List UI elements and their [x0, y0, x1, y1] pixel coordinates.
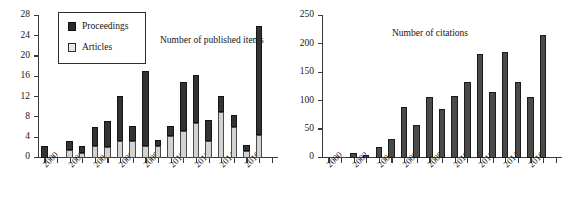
- bar-segment-proceedings: [129, 126, 136, 141]
- bar-segment-proceedings: [92, 127, 99, 147]
- y-tick-published-12: 12: [34, 96, 39, 97]
- y-tick-citations-250: 250: [318, 15, 323, 16]
- bar-citations-2006: [401, 107, 408, 158]
- bar-segment-articles: [142, 146, 149, 158]
- bar-citations-2008: [426, 97, 433, 158]
- bar-segment-articles: [117, 141, 124, 158]
- bar-segment-articles: [231, 127, 238, 158]
- x-tick-citations-2017: [543, 158, 544, 163]
- x-tick-citations-2018: [556, 158, 557, 163]
- x-tick-published-2013: [209, 158, 210, 163]
- x-tick-citations-2015: [518, 158, 519, 163]
- y-tick-published-8: 8: [34, 116, 39, 117]
- bar-citations-2004: [376, 147, 383, 158]
- bar-citations-2013: [489, 92, 496, 158]
- bar-published-2011: [180, 82, 187, 158]
- bar-published-2014: [218, 96, 225, 158]
- y-tick-label: 28: [21, 11, 31, 21]
- bar-published-2012: [193, 75, 200, 158]
- bar-published-2008: [142, 71, 149, 158]
- y-tick-label: 16: [21, 72, 31, 82]
- x-tick-citations-2009: [442, 158, 443, 163]
- bar-segment-articles: [167, 136, 174, 158]
- bar-citations-2012: [477, 54, 484, 158]
- y-tick-label: 8: [25, 112, 30, 122]
- y-tick-label: 50: [305, 124, 315, 134]
- x-tick-citations-2001: [341, 158, 342, 163]
- bar-citations-2003: [363, 155, 370, 158]
- plot-area-published: 0481216202428200020022004200620082010201…: [38, 16, 278, 158]
- y-tick-citations-200: 200: [318, 43, 323, 44]
- y-tick-label: 12: [21, 92, 31, 102]
- x-tick-citations-2003: [366, 158, 367, 163]
- y-tick-citations-50: 50: [318, 128, 323, 129]
- bar-published-2013: [205, 120, 212, 158]
- bar-segment-articles: [256, 135, 263, 158]
- y-tick-published-0: 0: [34, 157, 39, 158]
- bar-published-2002: [66, 141, 73, 158]
- bar-segment-articles: [129, 141, 136, 158]
- y-axis-citations: [322, 16, 323, 158]
- y-tick-published-20: 20: [34, 55, 39, 56]
- bar-citations-2009: [439, 109, 446, 158]
- y-tick-label: 0: [309, 153, 314, 163]
- x-tick-published-2005: [107, 158, 108, 163]
- bar-citations-2015: [515, 82, 522, 158]
- figure-two-bar-charts: Number of published items Proceedings Ar…: [0, 0, 568, 202]
- x-tick-citations-2011: [467, 158, 468, 163]
- bar-segment-proceedings: [218, 96, 225, 112]
- bar-segment-articles: [193, 123, 200, 159]
- x-tick-published-2003: [82, 158, 83, 163]
- bar-segment-articles: [180, 131, 187, 158]
- bar-segment-articles: [205, 141, 212, 158]
- y-tick-label: 250: [300, 11, 314, 21]
- y-tick-label: 200: [300, 39, 314, 49]
- y-tick-label: 20: [21, 51, 31, 61]
- y-tick-published-24: 24: [34, 35, 39, 36]
- bar-published-2007: [129, 126, 136, 158]
- bar-segment-proceedings: [167, 126, 174, 136]
- y-tick-label: 100: [300, 96, 314, 106]
- x-tick-published-2018: [272, 158, 273, 163]
- bar-published-2004: [92, 127, 99, 158]
- bar-segment-proceedings: [180, 82, 187, 131]
- y-tick-label: 4: [25, 132, 30, 142]
- bar-segment-proceedings: [193, 75, 200, 122]
- x-tick-published-2015: [234, 158, 235, 163]
- bar-citations-2017: [540, 35, 547, 158]
- bar-published-2015: [231, 115, 238, 158]
- y-tick-published-28: 28: [34, 15, 39, 16]
- bar-segment-articles: [92, 146, 99, 158]
- bar-published-2016: [243, 145, 250, 158]
- y-tick-citations-0: 0: [318, 157, 323, 158]
- bar-segment-proceedings: [231, 115, 238, 127]
- bar-segment-proceedings: [243, 145, 250, 152]
- bar-published-2017: [256, 26, 263, 158]
- bar-published-2003: [79, 146, 86, 158]
- bar-published-2009: [155, 140, 162, 158]
- x-tick-published-2009: [158, 158, 159, 163]
- bar-segment-articles: [66, 150, 73, 158]
- bar-published-2006: [117, 96, 124, 158]
- x-tick-published-2007: [133, 158, 134, 163]
- x-tick-published-2001: [57, 158, 58, 163]
- bar-segment-proceedings: [256, 26, 263, 135]
- bar-segment-proceedings: [142, 71, 149, 147]
- bar-segment-articles: [218, 112, 225, 158]
- x-tick-citations-2013: [493, 158, 494, 163]
- bar-citations-2011: [464, 82, 471, 158]
- bar-segment-articles: [104, 147, 111, 158]
- bar-segment-proceedings: [79, 146, 86, 153]
- bar-citations-2014: [502, 52, 509, 158]
- x-tick-citations-2007: [417, 158, 418, 163]
- bar-citations-2010: [451, 96, 458, 158]
- bar-segment-proceedings: [117, 96, 124, 141]
- bar-citations-2005: [388, 139, 395, 158]
- bar-segment-proceedings: [104, 121, 111, 147]
- bar-published-2000: [41, 146, 48, 158]
- y-tick-published-16: 16: [34, 76, 39, 77]
- bar-segment-articles: [155, 146, 162, 158]
- bar-citations-2007: [413, 125, 420, 158]
- bar-segment-articles: [79, 153, 86, 158]
- bar-segment-proceedings: [41, 146, 48, 158]
